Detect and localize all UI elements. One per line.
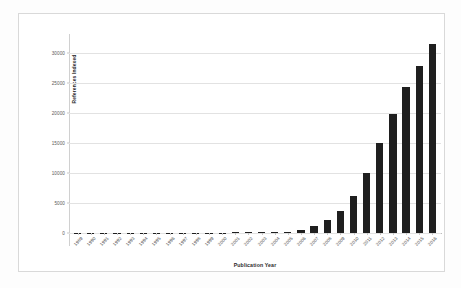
figure-frame: References Indexed 050001000015000200002…: [18, 13, 445, 272]
y-axis-tick-label: 5000: [54, 201, 65, 206]
bar-slot: [124, 41, 137, 233]
bar-slot: [216, 41, 229, 233]
x-axis-tick-label: 2016: [427, 236, 438, 247]
x-axis-tick-label: 2005: [283, 236, 294, 247]
x-axis-title: Publication Year: [69, 262, 441, 268]
x-axis-tick-label: 2008: [322, 236, 333, 247]
bar: [310, 226, 317, 233]
x-axis-tick-label: 2000: [217, 236, 228, 247]
bar-slot: [71, 41, 84, 233]
x-axis-tick-label: 2013: [388, 236, 399, 247]
bar-slot: [84, 41, 97, 233]
x-axis-tick-label: 2003: [256, 236, 267, 247]
x-axis-tick-label: 2007: [309, 236, 320, 247]
bar-slot: [229, 41, 242, 233]
x-axis-tick-label: 1992: [112, 236, 123, 247]
x-axis-tick-label: 2004: [270, 236, 281, 247]
bar-slot: [308, 41, 321, 233]
y-axis-tick-label: 15000: [52, 141, 65, 146]
x-axis-tick-label: 2012: [375, 236, 386, 247]
x-axis-tick-label: 1998: [191, 236, 202, 247]
gridline: [69, 233, 441, 234]
y-axis-tick-label: 25000: [52, 81, 65, 86]
x-axis-tick-label: 2011: [362, 236, 373, 247]
y-axis-tick-label: 30000: [52, 51, 65, 56]
x-axis-tick-label: 1994: [138, 236, 149, 247]
bar-slot: [202, 41, 215, 233]
x-axis-tick-label: 2010: [348, 236, 359, 247]
bar-slot: [110, 41, 123, 233]
bar-slot: [360, 41, 373, 233]
x-axis-tick-label: 1997: [178, 236, 189, 247]
plot-area: 050001000015000200002500030000: [69, 41, 441, 233]
x-axis-tick-label: 1999: [204, 236, 215, 247]
bar-slot: [281, 41, 294, 233]
x-axis-tick-label: 2001: [230, 236, 241, 247]
bar-slot: [176, 41, 189, 233]
bar: [402, 87, 409, 233]
bar-slot: [373, 41, 386, 233]
bar-series: [69, 41, 441, 233]
bar: [389, 114, 396, 233]
bar-slot: [400, 41, 413, 233]
bar-slot: [189, 41, 202, 233]
bar: [376, 143, 383, 233]
x-axis-tick-label: 2006: [296, 236, 307, 247]
x-axis-tick-label: 1993: [125, 236, 136, 247]
bar-slot: [268, 41, 281, 233]
x-axis-tick-label: 1990: [86, 236, 97, 247]
bar-slot: [413, 41, 426, 233]
bar: [363, 173, 370, 233]
bar-slot: [137, 41, 150, 233]
x-axis-tick-label: 2014: [401, 236, 412, 247]
bar: [416, 66, 423, 233]
bar: [337, 211, 344, 233]
bar-slot: [426, 41, 439, 233]
y-axis-tick-label: 0: [62, 231, 65, 236]
y-axis-tick-label: 20000: [52, 111, 65, 116]
bar-slot: [334, 41, 347, 233]
bar-slot: [150, 41, 163, 233]
x-axis-tick-label: 2015: [414, 236, 425, 247]
bar: [350, 196, 357, 234]
bar-slot: [97, 41, 110, 233]
bar-slot: [386, 41, 399, 233]
x-axis-tick-label: 2002: [243, 236, 254, 247]
x-axis-tick-label: 1996: [164, 236, 175, 247]
x-axis-tick-label: 1995: [151, 236, 162, 247]
bar-slot: [242, 41, 255, 233]
x-axis-tick-label: 2009: [335, 236, 346, 247]
chart-screenshot: References Indexed 050001000015000200002…: [0, 0, 461, 288]
bar: [324, 220, 331, 233]
bar-slot: [321, 41, 334, 233]
bar-slot: [255, 41, 268, 233]
x-axis-tick-label: 1989: [73, 236, 84, 247]
y-axis-tick-label: 10000: [52, 171, 65, 176]
bar-slot: [163, 41, 176, 233]
bar: [429, 44, 436, 233]
bar-slot: [294, 41, 307, 233]
bar-slot: [347, 41, 360, 233]
x-axis-tick-label: 1991: [99, 236, 110, 247]
